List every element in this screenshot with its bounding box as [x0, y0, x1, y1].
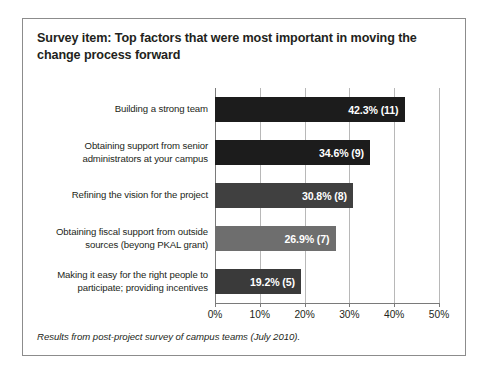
bar-row: Building a strong team42.3% (11) — [215, 97, 439, 122]
x-axis-line — [215, 303, 440, 304]
x-axis-tick-label: 30% — [339, 309, 359, 320]
category-label-line: Obtaining fiscal support from outside — [40, 226, 208, 238]
x-axis-tick — [349, 303, 350, 307]
x-axis-tick — [439, 303, 440, 307]
x-axis-tick-label: 10% — [250, 309, 270, 320]
x-axis-tick-label: 0% — [208, 309, 223, 320]
x-axis-tick — [260, 303, 261, 307]
bar: 34.6% (9) — [215, 140, 370, 165]
category-label-line: Building a strong team — [40, 103, 208, 115]
bar-value-label: 34.6% (9) — [319, 147, 370, 159]
plot-area: Building a strong team42.3% (11)Obtainin… — [215, 88, 439, 303]
chart-figure-frame: Survey item: Top factors that were most … — [22, 18, 466, 356]
bar-value-label: 19.2% (5) — [250, 276, 301, 288]
category-label: Making it easy for the right people topa… — [40, 269, 208, 294]
bar: 26.9% (7) — [215, 226, 336, 251]
bar: 19.2% (5) — [215, 269, 301, 294]
x-axis-tick-label: 50% — [429, 309, 449, 320]
x-axis-tick-label: 20% — [294, 309, 314, 320]
x-axis-tick-label: 40% — [384, 309, 404, 320]
category-label: Obtaining support from senioradministrat… — [40, 140, 208, 165]
category-label-line: sources (beyong PKAL grant) — [40, 239, 208, 251]
x-axis-tick — [394, 303, 395, 307]
category-label-line: administrators at your campus — [40, 153, 208, 165]
bar-row: Making it easy for the right people topa… — [215, 269, 439, 294]
bar-value-label: 30.8% (8) — [302, 190, 353, 202]
category-label-line: Making it easy for the right people to — [40, 269, 208, 281]
bar-value-label: 26.9% (7) — [284, 233, 335, 245]
bar: 30.8% (8) — [215, 183, 353, 208]
bar-row: Obtaining fiscal support from outsidesou… — [215, 226, 439, 251]
chart-footnote: Results from post-project survey of camp… — [37, 331, 300, 342]
category-label-line: Refining the vision for the project — [40, 189, 208, 201]
category-label-line: participate; providing incentives — [40, 282, 208, 294]
bar-value-label: 42.3% (11) — [348, 104, 404, 116]
chart-title: Survey item: Top factors that were most … — [37, 30, 449, 63]
x-axis-tick — [305, 303, 306, 307]
category-label: Refining the vision for the project — [40, 189, 208, 201]
category-label-line: Obtaining support from senior — [40, 140, 208, 152]
category-label: Obtaining fiscal support from outsidesou… — [40, 226, 208, 251]
bar-series: Building a strong team42.3% (11)Obtainin… — [215, 88, 439, 303]
x-axis-tick — [215, 303, 216, 307]
bar: 42.3% (11) — [215, 97, 405, 122]
gridline-50 — [439, 88, 440, 303]
bar-row: Obtaining support from senioradministrat… — [215, 140, 439, 165]
bar-row: Refining the vision for the project30.8%… — [215, 183, 439, 208]
category-label: Building a strong team — [40, 103, 208, 115]
